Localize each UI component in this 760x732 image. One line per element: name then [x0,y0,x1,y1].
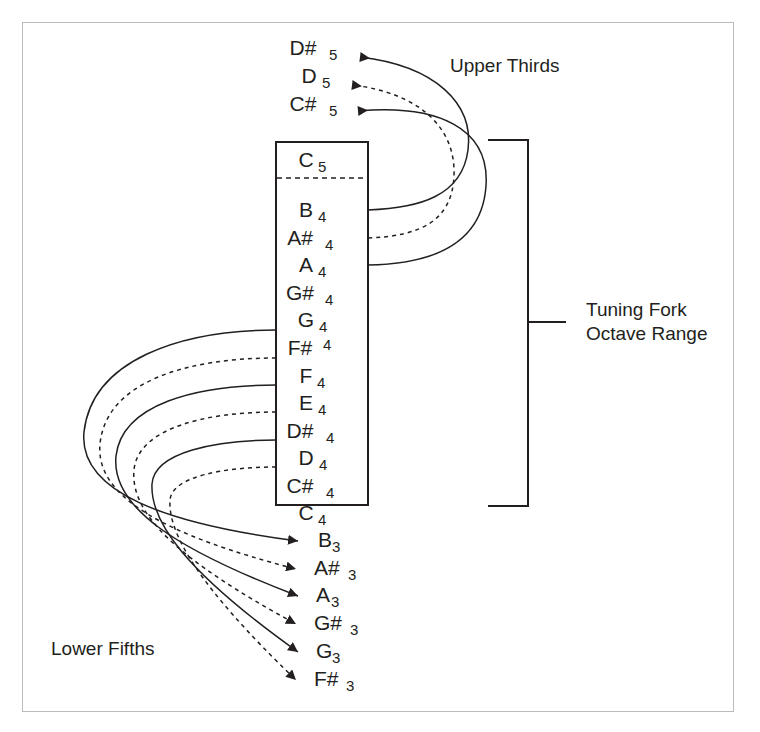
note-e4: E 4 [299,391,326,418]
connector-e4-to-a3 [116,385,298,596]
note-asharp4-name: A# [287,226,313,249]
note-d4-octave: 4 [319,456,327,473]
note-c4-name: C [298,501,313,524]
note-asharp3-name: A# [314,556,340,579]
note-dsharp4-name: D# [287,419,314,442]
note-csharp5-octave: 5 [329,102,337,119]
note-dsharp5: D# 5 [290,36,338,63]
note-csharp4-octave: 4 [326,484,334,501]
note-asharp4-octave: 4 [325,236,333,253]
note-g3-octave: 3 [332,649,340,666]
figure-root: C 5 B 4 A# 4 A 4 G# 4 G 4 [0,0,760,732]
connector-a4-to-csharp5 [358,110,486,265]
note-gsharp3-name: G# [314,611,342,634]
note-a3-octave: 3 [331,593,339,610]
octave-box-note-labels: C 5 B 4 A# 4 A 4 G# 4 G 4 [286,148,334,528]
note-f4-name: F [300,364,313,387]
note-dsharp4-octave: 4 [326,429,334,446]
upper-thirds-connectors [352,57,486,265]
connector-b4-to-dsharp5 [360,57,469,210]
note-gsharp4: G# 4 [286,281,333,308]
connector-fsharp4-to-b3 [84,330,298,541]
note-b4: B 4 [299,198,326,225]
note-asharp3: A# 3 [314,556,356,583]
bracket-outline [488,140,528,506]
note-a4-name: A [299,253,313,276]
note-gsharp3: G# 3 [314,611,358,638]
diagram-canvas: C 5 B 4 A# 4 A 4 G# 4 G 4 [0,0,760,732]
note-a4-octave: 4 [318,263,326,280]
note-e4-octave: 4 [318,401,326,418]
note-d5-octave: 5 [322,74,330,91]
connector-dsharp4-to-gsharp3 [134,412,296,624]
note-a3-name: A [316,583,330,606]
connector-f4-to-asharp3 [100,358,296,569]
note-dsharp5-octave: 5 [329,46,337,63]
caption-lower-fifths: Lower Fifths [51,638,154,659]
note-g4-octave: 4 [319,318,327,335]
note-csharp4-name: C# [287,474,314,497]
note-f4: F 4 [300,364,326,391]
note-dsharp4: D# 4 [287,419,335,446]
note-b4-name: B [299,198,313,221]
note-fsharp3-octave: 3 [346,677,354,694]
note-fsharp4-name: F# [288,336,313,359]
note-c5-name: C [298,148,313,171]
note-gsharp4-octave: 4 [325,291,333,308]
upper-thirds-labels: D# 5 D 5 C# 5 [290,36,338,119]
note-asharp4: A# 4 [287,226,333,253]
note-fsharp4: F# 4 [288,336,332,359]
note-g3-name: G [316,639,332,662]
note-d4: D 4 [298,446,327,473]
note-b4-octave: 4 [318,208,326,225]
note-b3-octave: 3 [332,538,340,555]
tuning-fork-range-bracket [488,140,566,506]
note-c5: C 5 [298,148,326,175]
note-d5-name: D [301,64,316,87]
lower-fifths-connectors [84,330,298,680]
note-c5-octave: 5 [318,158,326,175]
note-csharp4: C# 4 [287,474,335,501]
connector-csharp4-to-fsharp3 [170,467,296,680]
note-gsharp3-octave: 3 [350,621,358,638]
caption-bracket-line2: Octave Range [586,323,707,344]
note-fsharp3-name: F# [314,667,339,690]
note-g3: G 3 [316,639,340,666]
note-fsharp3: F# 3 [314,667,354,694]
caption-upper-thirds: Upper Thirds [450,55,559,76]
note-dsharp5-name: D# [290,36,317,59]
note-csharp5: C# 5 [290,92,338,119]
note-d4-name: D [298,446,313,469]
note-f4-octave: 4 [317,374,325,391]
note-g4: G 4 [298,308,328,335]
caption-bracket-line1: Tuning Fork [586,299,687,320]
note-c4-octave: 4 [318,511,326,528]
note-asharp3-octave: 3 [348,566,356,583]
note-b3: B 3 [318,528,340,555]
note-e4-name: E [299,391,313,414]
note-fsharp4-octave: 4 [323,336,331,353]
lower-fifths-labels: B 3 A# 3 A 3 G# 3 G 3 F# 3 [314,528,358,694]
note-g4-name: G [298,308,314,331]
note-d5: D 5 [301,64,330,91]
note-csharp5-name: C# [290,92,317,115]
note-a4: A 4 [299,253,326,280]
note-b3-name: B [318,528,332,551]
note-a3: A 3 [316,583,339,610]
note-gsharp4-name: G# [286,281,314,304]
